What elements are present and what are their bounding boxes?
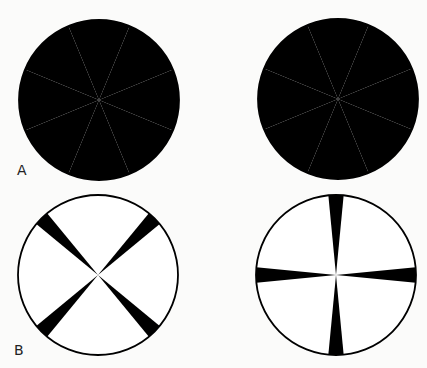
radial-sector-diagram bbox=[0, 0, 427, 368]
sector-disk-a-right bbox=[258, 19, 418, 179]
sector-disk-b-left bbox=[18, 195, 178, 355]
panel-label-a: A bbox=[17, 162, 27, 178]
sector-disk-b-right bbox=[256, 195, 416, 355]
sector-disk-a-left bbox=[19, 20, 179, 180]
panel-label-b: B bbox=[14, 342, 24, 358]
